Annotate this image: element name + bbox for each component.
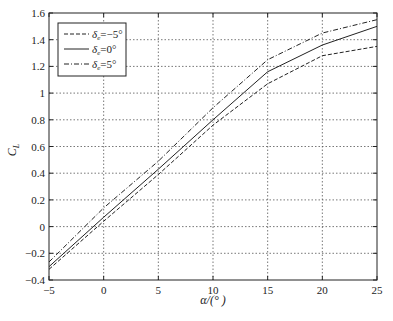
y-tick-label: 1.2 (31, 60, 45, 72)
y-tick-label: 0.8 (31, 114, 45, 126)
lift-coefficient-chart: −50510152025 −0.4−0.200.20.40.60.811.21.… (0, 0, 393, 321)
legend: δe=−5°δe=0°δe=5° (58, 23, 126, 76)
x-tick-label: 15 (262, 284, 274, 296)
y-tick-label: −0.4 (25, 274, 45, 286)
x-tick-label: 5 (156, 284, 162, 296)
legend-label: δe=5° (92, 58, 116, 72)
x-axis-label: α/(° ) (200, 293, 225, 307)
y-tick-label: 0.2 (31, 194, 45, 206)
x-tick-label: 0 (101, 284, 107, 296)
y-axis-label: CL (5, 143, 21, 156)
legend-label: δe=−5° (92, 28, 123, 42)
y-tick-label: 0.6 (31, 141, 45, 153)
x-tick-label: 20 (317, 284, 329, 296)
y-tick-label: −0.2 (25, 247, 45, 259)
y-tick-label: 1.6 (31, 7, 45, 19)
y-tick-label: 1 (40, 87, 46, 99)
legend-label: δe=0° (92, 43, 116, 57)
y-tick-label: 0.4 (31, 167, 45, 179)
y-tick-label: 1.4 (31, 34, 45, 46)
y-tick-label: 0 (40, 221, 46, 233)
x-tick-label: 25 (372, 284, 384, 296)
